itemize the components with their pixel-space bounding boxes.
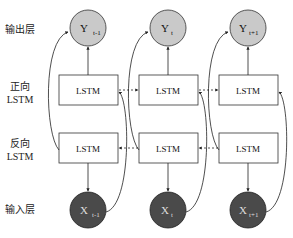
output-node-subscript: t+1 bbox=[249, 29, 259, 37]
input-node-subscript: t bbox=[171, 211, 173, 219]
column-t-plus-1: Y t+1 LSTM LSTM X t+1 bbox=[208, 10, 286, 228]
backward-lstm-text: LSTM bbox=[156, 144, 180, 154]
forward-lstm-text: LSTM bbox=[76, 86, 100, 96]
input-node-label: X bbox=[161, 204, 169, 216]
input-node-subscript: t+1 bbox=[249, 211, 259, 219]
diagram-canvas: Y t-1 LSTM LSTM X t-1 Y t LSTM bbox=[0, 0, 293, 238]
forward-lstm-text: LSTM bbox=[156, 86, 180, 96]
output-node-circle bbox=[70, 10, 106, 46]
forward-lstm-text: LSTM bbox=[236, 86, 260, 96]
backward-lstm-text: LSTM bbox=[236, 144, 260, 154]
output-node-subscript: t bbox=[171, 29, 173, 37]
input-node-label: X bbox=[239, 204, 247, 216]
output-node-label: Y bbox=[161, 22, 169, 34]
output-node-label: Y bbox=[239, 22, 247, 34]
input-node-label: X bbox=[80, 204, 88, 216]
backward-lstm-text: LSTM bbox=[76, 144, 100, 154]
input-node-subscript: t-1 bbox=[92, 211, 100, 219]
column-t: Y t LSTM LSTM X t bbox=[128, 10, 206, 228]
output-node-circle bbox=[230, 10, 266, 46]
output-node-label: Y bbox=[80, 22, 88, 34]
output-node-subscript: t-1 bbox=[93, 29, 101, 37]
column-t-minus-1: Y t-1 LSTM LSTM X t-1 bbox=[48, 10, 126, 228]
bilstm-diagram: 输出层 正向 LSTM 反向 LSTM 输入层 Y t-1 LSTM LSTM bbox=[0, 0, 293, 238]
input-node-circle bbox=[70, 192, 106, 228]
input-node-circle bbox=[230, 192, 266, 228]
